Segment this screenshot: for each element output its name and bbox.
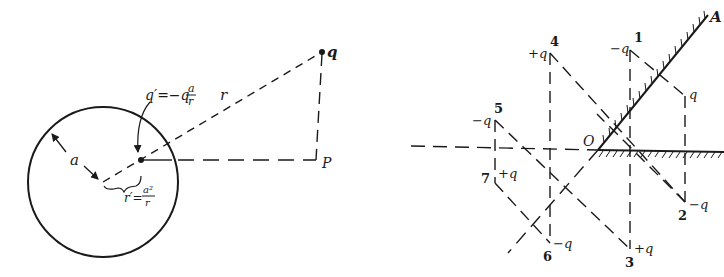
image-distance-num: a² (143, 184, 153, 195)
plane-label: A (708, 8, 722, 26)
horizontal-axis-dashed (411, 146, 598, 150)
radius-label: a (70, 151, 79, 169)
physics-figure: a q r P q′=−q a r r′= a² r (0, 0, 724, 277)
charge-5-index: 5 (494, 101, 503, 116)
inclined-plane-hatching (603, 11, 705, 143)
image-distance-den: r (145, 197, 151, 208)
inclined-plane (598, 15, 708, 150)
charge-3-index: 3 (625, 255, 634, 270)
charge-4-value: +q (528, 46, 547, 61)
charge-3-value: +q (634, 241, 653, 256)
charge-1-value: −q (610, 41, 629, 56)
wedge-image-diagram: O A 1 −q q −q 2 +q 3 4 +q 5 −q −q 6 7 +q (411, 8, 724, 270)
image-charge-fraction-den: r (188, 95, 194, 108)
image-distance-prefix: r′= (124, 191, 143, 205)
radius-arrow-lower (84, 166, 98, 179)
image-charge-fraction-num: a (188, 82, 195, 95)
image-charge-dot (138, 157, 144, 163)
radius-arrow (52, 134, 66, 152)
charge-1-index: 1 (634, 30, 643, 45)
charge-7-index: 7 (481, 171, 490, 186)
charge-real-value: q (689, 87, 697, 102)
center-to-charge-line (103, 52, 322, 182)
real-charge-dot (319, 49, 325, 55)
sphere-image-diagram: a q r P q′=−q a r r′= a² r (28, 43, 338, 257)
image-charge-pointer-arrow (138, 102, 150, 152)
field-point-label: P (321, 155, 332, 171)
image-charge-label: q′=−q (145, 87, 190, 103)
charge-2-index: 2 (678, 208, 687, 223)
charge-to-p-line (316, 54, 322, 160)
charge-6-value: −q (553, 236, 572, 251)
charge-2-value: −q (689, 197, 708, 212)
charge-4-index: 4 (550, 34, 559, 49)
origin-label: O (583, 133, 595, 149)
charge-6-index: 6 (543, 249, 552, 264)
distance-label: r (220, 86, 228, 104)
real-charge-label: q (327, 43, 338, 61)
charge-7-value: +q (498, 166, 517, 181)
charge-5-value: −q (472, 113, 491, 128)
